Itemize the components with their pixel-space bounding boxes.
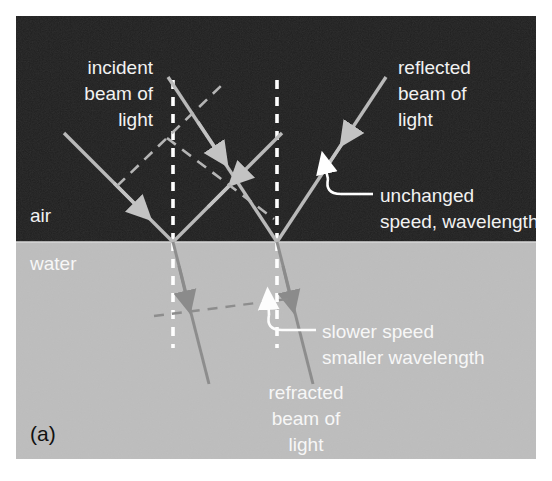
water-label: water [29,253,77,274]
svg-text:light: light [398,109,434,130]
svg-text:incident: incident [88,57,154,78]
air-label: air [30,205,52,226]
svg-text:speed, wavelength: speed, wavelength [380,211,536,232]
figure-panel-a: air water incident beam of light reflect… [0,0,552,481]
svg-text:smaller wavelength: smaller wavelength [322,347,485,368]
svg-text:unchanged: unchanged [380,185,474,206]
svg-text:slower speed: slower speed [322,321,434,342]
diagram-stage: air water incident beam of light reflect… [16,16,536,459]
svg-text:reflected: reflected [398,57,471,78]
air-region-texture [16,16,536,242]
svg-text:beam of: beam of [272,408,341,429]
svg-text:light: light [118,109,154,130]
svg-text:light: light [289,434,325,455]
refraction-reflection-diagram: air water incident beam of light reflect… [16,16,536,459]
svg-text:beam of: beam of [84,83,153,104]
svg-text:beam of: beam of [398,83,467,104]
slower-leader-arrow [268,297,269,315]
panel-label: (a) [30,422,56,445]
svg-text:refracted: refracted [269,382,344,403]
